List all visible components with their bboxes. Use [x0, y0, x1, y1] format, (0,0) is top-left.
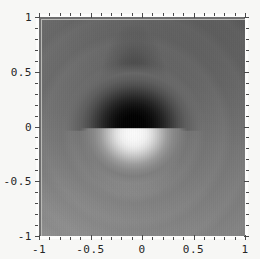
y-axis-tick-label: 1: [2, 11, 32, 24]
x-axis-top-minor-tick: [224, 13, 225, 16]
y-axis-minor-tick: [35, 137, 38, 138]
x-axis-major-tick: [194, 235, 195, 240]
x-axis-top-minor-tick: [204, 13, 205, 16]
x-axis-minor-tick: [163, 237, 164, 240]
y-axis-minor-tick: [35, 225, 38, 226]
y-axis-right-minor-tick: [246, 192, 249, 193]
x-axis-minor-tick: [121, 237, 122, 240]
x-axis-top-minor-tick: [152, 13, 153, 16]
x-axis-minor-tick: [111, 237, 112, 240]
y-axis-minor-tick: [35, 170, 38, 171]
x-axis-tick-label: -0.5: [76, 243, 105, 256]
plot-frame: [36, 14, 248, 239]
x-axis-top-minor-tick: [214, 13, 215, 16]
y-axis-minor-tick: [35, 159, 38, 160]
y-axis-minor-tick: [35, 214, 38, 215]
y-axis-right-minor-tick: [246, 94, 249, 95]
x-axis-top-minor-tick: [121, 13, 122, 16]
x-axis-top-minor-tick: [70, 13, 71, 16]
y-axis-minor-tick: [35, 61, 38, 62]
y-axis-tick-label: -0.5: [2, 175, 32, 188]
x-axis-top-minor-tick: [80, 13, 81, 16]
y-axis-major-tick: [35, 181, 40, 182]
x-axis-top-minor-tick: [49, 13, 50, 16]
x-axis-major-tick: [39, 235, 40, 240]
x-axis-minor-tick: [80, 237, 81, 240]
x-axis-minor-tick: [70, 237, 71, 240]
x-axis-minor-tick: [49, 237, 50, 240]
plot-area: [42, 20, 248, 239]
x-axis-minor-tick: [173, 237, 174, 240]
y-axis-minor-tick: [35, 83, 38, 84]
y-axis-right-minor-tick: [246, 50, 249, 51]
x-axis-minor-tick: [235, 237, 236, 240]
y-axis-major-tick: [35, 127, 40, 128]
y-axis-right-major-tick: [244, 181, 249, 182]
x-axis-top-minor-tick: [235, 13, 236, 16]
y-axis-right-minor-tick: [246, 28, 249, 29]
density-plot-figure: 10.50-0.5-1-1-0.500.51: [0, 0, 260, 259]
x-axis-tick-label: 1: [241, 243, 248, 256]
y-axis-right-major-tick: [244, 72, 249, 73]
plot-frame-wrapper: 10.50-0.5-1-1-0.500.51: [36, 14, 248, 239]
y-axis-right-minor-tick: [246, 203, 249, 204]
y-axis-minor-tick: [35, 116, 38, 117]
x-axis-minor-tick: [204, 237, 205, 240]
x-axis-tick-label: 0: [138, 243, 145, 256]
y-axis-right-minor-tick: [246, 170, 249, 171]
x-axis-minor-tick: [60, 237, 61, 240]
x-axis-minor-tick: [224, 237, 225, 240]
y-axis-minor-tick: [35, 39, 38, 40]
y-axis-right-minor-tick: [246, 61, 249, 62]
y-axis-tick-label: -1: [2, 230, 32, 243]
x-axis-top-minor-tick: [163, 13, 164, 16]
y-axis-minor-tick: [35, 148, 38, 149]
x-axis-top-minor-tick: [132, 13, 133, 16]
y-axis-tick-label: 0.5: [2, 65, 32, 78]
y-axis-minor-tick: [35, 203, 38, 204]
y-axis-tick-label: 0: [2, 120, 32, 133]
x-axis-major-tick: [142, 235, 143, 240]
raster-dither-layer: [42, 20, 248, 239]
x-axis-major-tick: [245, 235, 246, 240]
x-axis-top-major-tick: [245, 13, 246, 18]
x-axis-major-tick: [91, 235, 92, 240]
y-axis-right-minor-tick: [246, 225, 249, 226]
x-axis-minor-tick: [214, 237, 215, 240]
y-axis-right-minor-tick: [246, 159, 249, 160]
x-axis-top-minor-tick: [183, 13, 184, 16]
x-axis-top-minor-tick: [101, 13, 102, 16]
x-axis-tick-label: 0.5: [183, 243, 204, 256]
y-axis-right-minor-tick: [246, 83, 249, 84]
y-axis-right-minor-tick: [246, 148, 249, 149]
y-axis-minor-tick: [35, 50, 38, 51]
y-axis-minor-tick: [35, 105, 38, 106]
y-axis-right-minor-tick: [246, 105, 249, 106]
x-axis-top-minor-tick: [60, 13, 61, 16]
x-axis-top-minor-tick: [111, 13, 112, 16]
x-axis-minor-tick: [101, 237, 102, 240]
x-axis-top-minor-tick: [173, 13, 174, 16]
y-axis-minor-tick: [35, 94, 38, 95]
y-axis-right-minor-tick: [246, 137, 249, 138]
x-axis-minor-tick: [152, 237, 153, 240]
y-axis-right-minor-tick: [246, 39, 249, 40]
y-axis-minor-tick: [35, 28, 38, 29]
x-axis-top-major-tick: [194, 13, 195, 18]
x-axis-top-major-tick: [39, 13, 40, 18]
x-axis-minor-tick: [132, 237, 133, 240]
x-axis-top-major-tick: [91, 13, 92, 18]
y-axis-right-minor-tick: [246, 116, 249, 117]
y-axis-minor-tick: [35, 192, 38, 193]
y-axis-major-tick: [35, 72, 40, 73]
x-axis-top-major-tick: [142, 13, 143, 18]
y-axis-right-major-tick: [244, 127, 249, 128]
y-axis-right-minor-tick: [246, 214, 249, 215]
x-axis-minor-tick: [183, 237, 184, 240]
x-axis-tick-label: -1: [32, 243, 46, 256]
